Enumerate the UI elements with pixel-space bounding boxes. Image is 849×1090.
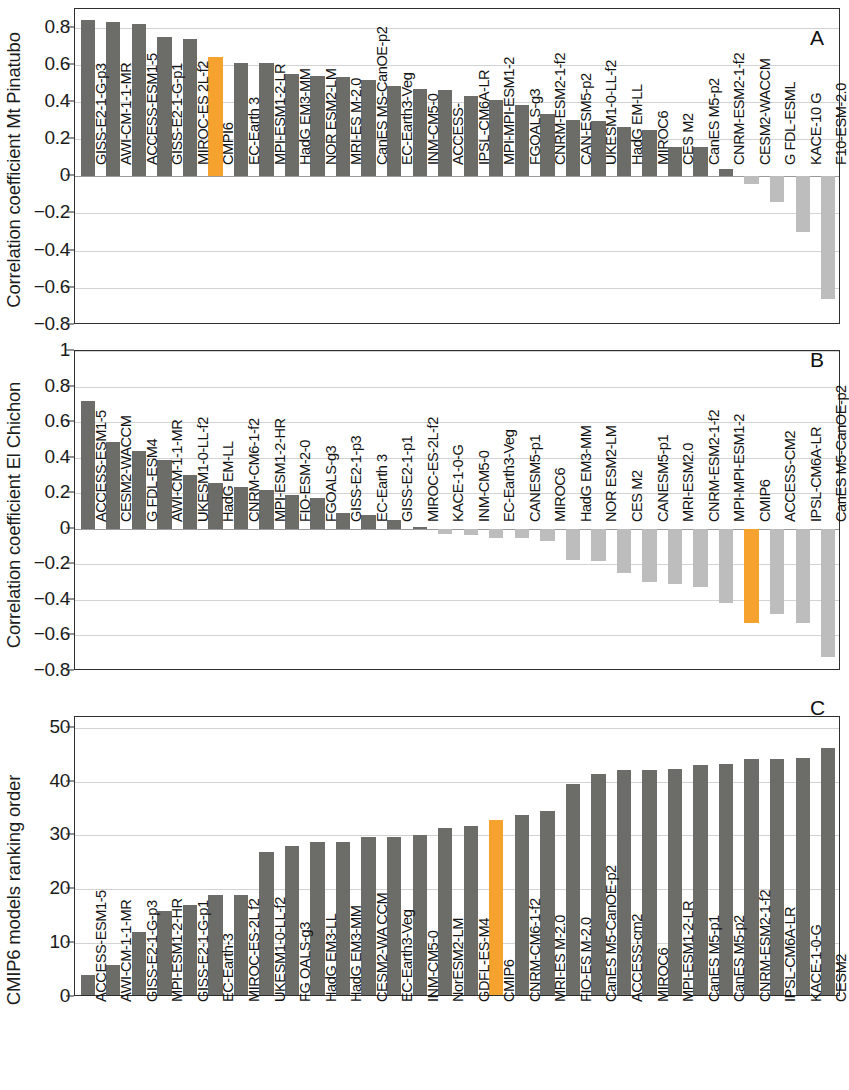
bar-category-label: EC-Earth3-Veg (501, 430, 517, 522)
bar[interactable] (566, 529, 580, 560)
bar[interactable] (617, 529, 631, 573)
bar-category-label: MRI-ES M-2.0 (348, 78, 364, 165)
panel-c-ytick-mark (66, 888, 74, 889)
bar[interactable] (821, 529, 835, 657)
panel-b-ytick-label: −0.6 (34, 623, 70, 645)
panel-a: Correlation coefficient Mt Pinatubo 0.80… (0, 0, 846, 340)
bar-category-label: FGOALS-g3 (527, 89, 543, 165)
panel-b-ytick-mark (66, 421, 74, 422)
bar-category-label: UKESM1-0-LL-f2 (195, 417, 211, 522)
panel-b-ytick-mark (66, 350, 74, 351)
bar-category-label: CanES M5-p2 (731, 915, 747, 1002)
panel-a-ytick-mark (66, 100, 74, 101)
bar-category-label: AWI-CM-1-1-MR (118, 63, 134, 165)
bar-category-label: CANESM5-p1 (655, 435, 671, 522)
panel-b-y-axis-ticks: 10.80.60.40.20−0.2−0.4−0.6−0.8 (0, 350, 74, 670)
bar[interactable] (821, 176, 835, 299)
bar-category-label: CNRM-CM6-1-f2 (246, 418, 262, 522)
bar[interactable] (796, 529, 810, 623)
panel-b: Correlation coefficient El Chichon 10.80… (0, 340, 846, 690)
bar[interactable] (744, 529, 758, 623)
bar-category-label: GISS-E2-1-G-p3 (144, 900, 160, 1002)
bar-category-label: MPI-ESM1-2-LR (680, 901, 696, 1002)
bar[interactable] (591, 529, 605, 561)
bar-category-label: INM-CM5-0 (425, 94, 441, 165)
bar-category-label: MIROC-ES 2L-f2 (195, 61, 211, 165)
panel-c-ytick-mark (66, 834, 74, 835)
bar-category-label: NorESM2-LM (450, 918, 466, 1002)
bar-category-label: CAN-ESM5-p2 (578, 73, 594, 165)
bar[interactable] (413, 527, 427, 529)
bar-category-label: HadG EM3-MM (348, 906, 364, 1002)
bar-category-label: CNRM-ESM2-1-f2 (731, 53, 747, 165)
panel-a-ytick-label: −0.4 (34, 239, 70, 261)
bar-category-label: HadG EM3-LL (323, 914, 339, 1002)
bar-category-label: FGOALS-g3 (323, 446, 339, 522)
bar[interactable] (770, 176, 784, 202)
bar[interactable] (515, 529, 529, 538)
panel-b-ytick-label: −0.2 (34, 552, 70, 574)
bar[interactable] (744, 176, 758, 183)
bar-category-label: FG OALS-g3 (297, 922, 313, 1002)
bar-category-label: NOR ESM2-LM (603, 426, 619, 522)
bar-category-label: MPI-ESM1-2-HR (272, 418, 288, 522)
bar-category-label: KACE-10 G (808, 93, 824, 165)
panel-c-ytick-mark (66, 942, 74, 943)
bar-category-label: MIROC6 (552, 468, 568, 522)
bar-category-label: AWI-CM-1-1-MR (118, 900, 134, 1002)
bar-category-label: AWI-CM-1-1-MR (169, 420, 185, 522)
bar-category-label: HadG EM-LL (220, 441, 236, 522)
bar-category-label: HadG EM3-MM (578, 426, 594, 522)
bar-category-label: GISS-E2-1-G-p1 (169, 63, 185, 165)
bar-category-label: MRI-ES M-2.0 (552, 915, 568, 1002)
bar[interactable] (438, 529, 452, 534)
bar[interactable] (719, 529, 733, 604)
panel-a-ytick-mark (66, 26, 74, 27)
bar-category-label: MPI-ESM1-2-HR (169, 898, 185, 1002)
bar-category-label: CMIP6 (757, 480, 773, 522)
bar-category-label: MPI-ESM1-2-LR (272, 64, 288, 165)
bar[interactable] (693, 529, 707, 588)
bar[interactable] (796, 176, 810, 232)
bar-category-label: GISS-E2-1-G-p1 (195, 900, 211, 1002)
panel-c: CMIP6 models ranking order 50403020100 C… (0, 690, 846, 1090)
bar[interactable] (540, 529, 554, 541)
bar-category-label: NOR ESM2-LM (323, 69, 339, 165)
panel-b-ytick-mark (66, 598, 74, 599)
panel-a-ytick-mark (66, 175, 74, 176)
bar[interactable] (489, 529, 503, 538)
bar-category-label: CMPI6 (220, 123, 236, 165)
panel-b-ytick-label: −0.4 (34, 588, 70, 610)
panel-a-bars (75, 9, 839, 323)
bar-category-label: ACCESS-ESM1-5 (144, 53, 160, 165)
bar[interactable] (770, 529, 784, 614)
bar-category-label: FIO-ESM-2-0 (297, 440, 313, 522)
bar-category-label: EC-Earth3-Veg (399, 910, 415, 1002)
bar-category-label: EC-Earth-3 (220, 934, 236, 1003)
bar-category-label: MPI-MPI-ESM1-2 (501, 57, 517, 165)
panel-b-ytick-label: −0.8 (34, 659, 70, 681)
bar[interactable] (668, 529, 682, 584)
bar-category-label: GISS-E2-1-p3 (348, 436, 364, 522)
bar[interactable] (719, 169, 733, 176)
panel-c-letter: C (810, 696, 825, 720)
panel-a-ytick-mark (66, 63, 74, 64)
panel-c-ytick-mark (66, 996, 74, 997)
bar-category-label: CNRM-CM6-1-f2 (527, 898, 543, 1002)
bar-category-label: HadG EM3-MM (297, 69, 313, 165)
bar-category-label: CES M2 (629, 470, 645, 522)
bar[interactable] (642, 529, 656, 582)
bar-category-label: INM-CM5-0 (476, 451, 492, 522)
panel-a-plot-area (74, 8, 840, 324)
bar-category-label: INM-CM5-0 (425, 931, 441, 1002)
panel-a-ytick-mark (66, 138, 74, 139)
bar-category-label: UKESM1-0-LL-f2 (272, 897, 288, 1002)
bar-category-label: GISS-E2-1-G-p3 (93, 63, 109, 165)
panel-c-y-axis-ticks: 50403020100 (0, 716, 74, 996)
bar-category-label: CESM2-WACCM (757, 59, 773, 165)
bar-category-label: MPI-MPI-ESM1-2 (731, 414, 747, 522)
bar-category-label: CanES M5-p2 (706, 78, 722, 165)
bar[interactable] (464, 529, 478, 535)
bar-category-label: FIO-ES M-2.0 (578, 917, 594, 1002)
